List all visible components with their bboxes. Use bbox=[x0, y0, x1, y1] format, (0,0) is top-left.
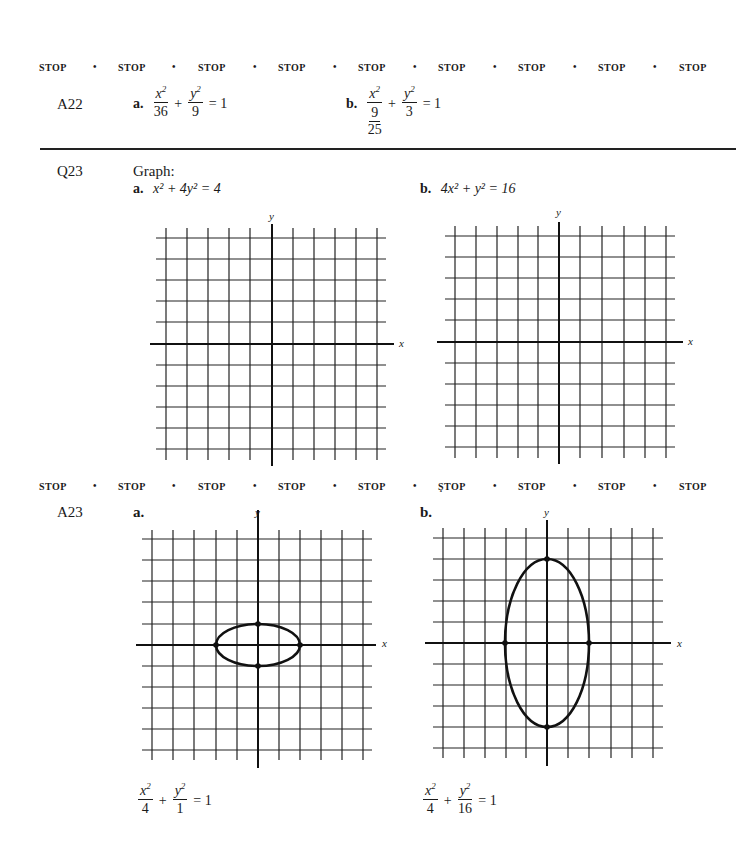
vertex-point bbox=[544, 724, 550, 730]
separator-dot: • bbox=[573, 61, 577, 72]
inner-denominator: 25 bbox=[367, 122, 382, 138]
stop-bar-middle: STOP • STOP • STOP • STOP • STOP • ŞTOP … bbox=[0, 481, 756, 497]
fraction: y2 16 bbox=[458, 783, 473, 818]
q23-label: Q23 bbox=[57, 163, 83, 180]
stop-label: STOP bbox=[118, 481, 146, 492]
y-axis-label: y bbox=[255, 506, 260, 518]
equation: 4x² + y² = 16 bbox=[441, 181, 516, 196]
part-letter: a. bbox=[133, 96, 144, 112]
denominator: 9 bbox=[188, 103, 203, 121]
x-axis-label: x bbox=[399, 337, 404, 349]
stop-bar-top: STOP • STOP • STOP • STOP • STOP • STOP … bbox=[0, 62, 756, 78]
q23-graph-a bbox=[150, 208, 410, 470]
stop-label: STOP bbox=[118, 62, 146, 73]
stop-label: STOP bbox=[278, 481, 306, 492]
stop-label: STOP bbox=[679, 481, 707, 492]
fraction: y2 9 bbox=[188, 86, 203, 121]
equation: x² + 4y² = 4 bbox=[153, 181, 221, 196]
separator-dot: • bbox=[172, 61, 176, 72]
fraction: y2 1 bbox=[173, 783, 188, 818]
stop-label: STOP bbox=[518, 481, 546, 492]
separator-dot: • bbox=[493, 480, 497, 491]
plus-sign: + bbox=[388, 96, 396, 112]
inner-numerator: 9 bbox=[369, 105, 380, 122]
fraction: x2 36 bbox=[154, 86, 169, 121]
covertex-point bbox=[255, 663, 261, 669]
x-axis-label: x bbox=[677, 637, 682, 649]
fraction: x2 4 bbox=[138, 783, 153, 818]
denominator: 4 bbox=[138, 800, 153, 818]
x-axis-label: x bbox=[688, 335, 693, 347]
a23-answer-a: x2 4 + y2 1 = 1 bbox=[136, 783, 216, 818]
part-letter: b. bbox=[346, 96, 357, 112]
denominator: 16 bbox=[458, 800, 473, 818]
a22-label: A22 bbox=[57, 96, 83, 113]
separator-dot: • bbox=[413, 480, 417, 491]
q23-prompt: Graph: bbox=[133, 163, 175, 180]
covertex-point bbox=[586, 640, 592, 646]
a23-graph-b bbox=[425, 508, 685, 770]
vertex-point bbox=[544, 556, 550, 562]
separator-dot: • bbox=[333, 480, 337, 491]
fraction: y2 3 bbox=[402, 86, 417, 121]
stop-label: STOP bbox=[518, 62, 546, 73]
separator-dot: • bbox=[253, 61, 257, 72]
part-letter: b. bbox=[420, 181, 431, 196]
denominator: 3 bbox=[402, 103, 417, 121]
covertex-point bbox=[255, 621, 261, 627]
plus-sign: + bbox=[159, 793, 167, 809]
stop-label: STOP bbox=[598, 481, 626, 492]
equals-one: = 1 bbox=[423, 96, 441, 112]
separator-dot: • bbox=[573, 480, 577, 491]
equals-one: = 1 bbox=[209, 96, 227, 112]
denominator: 1 bbox=[173, 800, 188, 818]
separator-dot: • bbox=[93, 61, 97, 72]
stop-label: ŞTOP bbox=[438, 481, 466, 492]
a23-label: A23 bbox=[57, 504, 83, 521]
stop-label: STOP bbox=[39, 62, 67, 73]
stop-label: STOP bbox=[39, 481, 67, 492]
vertex-point bbox=[213, 642, 219, 648]
vertex-point bbox=[297, 642, 303, 648]
separator-dot: • bbox=[253, 480, 257, 491]
stop-label: STOP bbox=[358, 481, 386, 492]
q23-graph-b bbox=[437, 206, 697, 468]
separator-dot: • bbox=[493, 61, 497, 72]
covertex-point bbox=[502, 640, 508, 646]
separator-dot: • bbox=[93, 480, 97, 491]
part-letter: a. bbox=[133, 181, 144, 196]
stop-label: STOP bbox=[278, 62, 306, 73]
separator-dot: • bbox=[653, 61, 657, 72]
a23-graph-a bbox=[136, 510, 396, 772]
x-axis-label: x bbox=[382, 637, 387, 649]
plus-sign: + bbox=[444, 793, 452, 809]
y-axis-label: y bbox=[556, 206, 561, 218]
equals-one: = 1 bbox=[478, 793, 496, 809]
stop-label: STOP bbox=[358, 62, 386, 73]
separator-dot: • bbox=[653, 480, 657, 491]
a23-answer-b: x2 4 + y2 16 = 1 bbox=[421, 783, 501, 818]
y-axis-label: y bbox=[269, 210, 274, 222]
compound-fraction: x2 9 25 bbox=[367, 86, 382, 138]
equals-one: = 1 bbox=[193, 793, 211, 809]
a22-part-b: b. x2 9 25 + y2 3 = 1 bbox=[346, 86, 445, 138]
stop-label: STOP bbox=[198, 62, 226, 73]
stop-label: STOP bbox=[598, 62, 626, 73]
denominator: 36 bbox=[154, 103, 169, 121]
stop-label: STOP bbox=[438, 62, 466, 73]
separator-dot: • bbox=[172, 480, 176, 491]
y-axis-label: y bbox=[544, 506, 549, 518]
stop-label: STOP bbox=[679, 62, 707, 73]
section-divider bbox=[40, 148, 736, 150]
q23-part-a: a. x² + 4y² = 4 bbox=[133, 181, 221, 197]
plus-sign: + bbox=[174, 96, 182, 112]
separator-dot: • bbox=[413, 61, 417, 72]
denominator: 4 bbox=[423, 800, 438, 818]
stop-label: STOP bbox=[198, 481, 226, 492]
a22-part-a: a. x2 36 + y2 9 = 1 bbox=[133, 86, 231, 121]
fraction: x2 4 bbox=[423, 783, 438, 818]
separator-dot: • bbox=[333, 61, 337, 72]
q23-part-b: b. 4x² + y² = 16 bbox=[420, 181, 516, 197]
